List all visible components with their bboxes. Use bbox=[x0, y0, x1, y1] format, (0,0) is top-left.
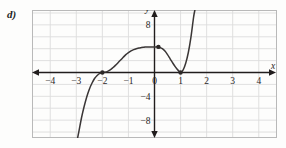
part-label: d) bbox=[7, 9, 16, 20]
plot-area: −4−3−2−101234 −8−48 yx bbox=[32, 10, 277, 138]
x-tick-label: 2 bbox=[204, 76, 209, 86]
coordinate-plane-svg: −4−3−2−101234 −8−48 yx bbox=[32, 10, 277, 138]
y-axis-name: y bbox=[144, 10, 150, 14]
x-tick-label: −2 bbox=[97, 76, 107, 86]
x-tick-label: −1 bbox=[123, 76, 133, 86]
marked-point bbox=[100, 70, 104, 74]
x-tick-label: 3 bbox=[230, 76, 235, 86]
x-axis-name: x bbox=[270, 61, 276, 71]
x-tick-label: 1 bbox=[178, 76, 183, 86]
marked-point bbox=[156, 45, 160, 49]
y-tick-label: 8 bbox=[146, 20, 151, 30]
marked-point bbox=[178, 70, 182, 74]
y-tick-label: −4 bbox=[140, 92, 150, 102]
graph-figure: d) −4−3−2−101234 −8−48 yx bbox=[0, 0, 286, 148]
y-tick-label: −8 bbox=[140, 116, 150, 126]
x-tick-label: 4 bbox=[256, 76, 261, 86]
x-tick-label: −3 bbox=[71, 76, 81, 86]
x-tick-label: −4 bbox=[45, 76, 55, 86]
x-tick-label: 0 bbox=[152, 76, 157, 86]
